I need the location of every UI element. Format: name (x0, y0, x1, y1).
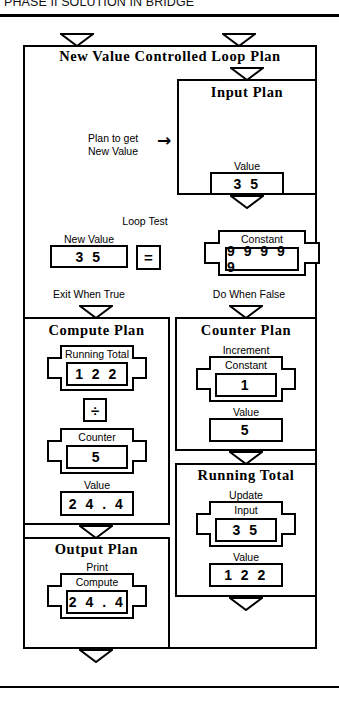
exit-chevron-root (79, 649, 113, 662)
page-header: E PHASE II SOLUTION IN BRIDGE (0, 0, 339, 14)
header-divider-rule (0, 14, 339, 17)
loop-test-left-caption: New Value (50, 233, 128, 245)
compute-plan-result: Value 2 4 . 4 (60, 479, 134, 516)
running-total-plan-result-value[interactable]: 1 2 2 (209, 563, 283, 587)
compute-plan-operand-2: Counter 5 (47, 428, 147, 474)
output-plan-title: Output Plan (23, 541, 170, 558)
running-total-plan-operand-value[interactable]: 3 5 (215, 518, 277, 542)
footer-divider-rule (0, 686, 339, 688)
counter-plan-operand-caption: Constant (196, 359, 296, 371)
do-when-false-label: Do When False (203, 288, 295, 301)
loop-test-left-operand: New Value 3 5 (50, 233, 128, 268)
loop-test-left-value[interactable]: 3 5 (50, 245, 128, 268)
compute-plan-result-value[interactable]: 2 4 . 4 (60, 491, 134, 516)
counter-plan-title: Counter Plan (175, 322, 317, 339)
running-total-plan-result: Value 1 2 2 (209, 551, 283, 587)
counter-plan-result-caption: Value (209, 406, 283, 418)
input-plan-value-caption: Value (210, 160, 284, 172)
counter-plan-result: Value 5 (209, 406, 283, 442)
counter-plan-operand-value[interactable]: 1 (215, 373, 277, 397)
right-arrow-icon: → (157, 132, 171, 149)
compute-plan-result-caption: Value (60, 479, 134, 491)
exit-when-true-label: Exit When True (43, 288, 135, 301)
input-plan-value-box: Value 3 5 (210, 160, 284, 195)
compute-plan-operand-1: Running Total 1 2 2 (47, 345, 147, 391)
running-total-plan-action-label: Update (209, 489, 283, 502)
output-plan-action-label: Print (60, 561, 134, 574)
compute-plan-operand-2-value[interactable]: 5 (66, 445, 128, 469)
loop-test-right-value[interactable]: 9 9 9 9 9 (225, 247, 299, 271)
plan-to-get-new-value-note: Plan to get New Value (88, 132, 138, 157)
running-total-plan-result-caption: Value (209, 551, 283, 563)
loop-test-right-operand: Constant 9 9 9 9 9 (204, 230, 320, 276)
loop-test-operator[interactable]: = (136, 245, 161, 270)
root-plan-title: New Value Controlled Loop Plan (23, 48, 317, 65)
loop-test-label: Loop Test (110, 215, 180, 228)
compute-plan-operand-2-caption: Counter (47, 431, 147, 443)
page-header-text: E PHASE II SOLUTION IN BRIDGE (0, 0, 194, 9)
output-plan-source: Compute 2 4 . 4 (47, 573, 147, 619)
output-plan-source-caption: Compute (47, 576, 147, 588)
input-plan-title: Input Plan (177, 84, 317, 101)
counter-plan-operand: Constant 1 (196, 356, 296, 402)
compute-plan-operator[interactable]: ÷ (83, 398, 107, 422)
running-total-plan-operand-caption: Input (196, 504, 296, 516)
compute-plan-operand-1-caption: Running Total (47, 348, 147, 360)
compute-plan-operand-1-value[interactable]: 1 2 2 (66, 362, 128, 386)
output-plan-source-value[interactable]: 2 4 . 4 (66, 590, 128, 614)
counter-plan-action-label: Increment (209, 344, 283, 357)
counter-plan-result-value[interactable]: 5 (209, 418, 283, 442)
running-total-plan-operand: Input 3 5 (196, 501, 296, 547)
input-plan-value-field[interactable]: 3 5 (210, 172, 284, 195)
compute-plan-title: Compute Plan (23, 322, 170, 339)
running-total-plan-title: Running Total (175, 467, 317, 484)
